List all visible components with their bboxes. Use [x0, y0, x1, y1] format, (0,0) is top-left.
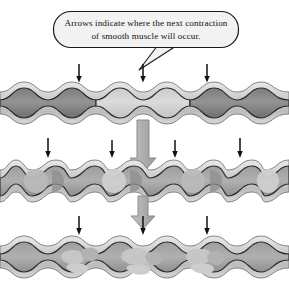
stage-1-tube	[0, 82, 289, 124]
thin-down-arrow	[45, 138, 50, 158]
thin-down-arrow	[109, 140, 114, 158]
thin-down-arrow	[237, 138, 242, 158]
callout-bubble: Arrows indicate where the next contracti…	[54, 12, 239, 71]
thin-down-arrow	[204, 64, 209, 83]
thin-down-arrow	[204, 216, 209, 235]
callout-line-1: Arrows indicate where the next contracti…	[64, 18, 227, 28]
thin-down-arrow	[172, 140, 177, 158]
callout-line-2: of smooth muscle will occur.	[91, 31, 200, 41]
stage-3-tube	[0, 236, 289, 278]
content-blob	[181, 169, 205, 193]
thin-down-arrow	[76, 216, 81, 235]
content-blob	[102, 169, 126, 193]
callout-box	[54, 12, 239, 48]
thin-down-arrow	[76, 64, 81, 83]
stage-3-arrows	[76, 216, 209, 235]
content-blob	[24, 169, 48, 193]
content-fragment	[190, 263, 214, 273]
peristalsis-diagram: Arrows indicate where the next contracti…	[0, 0, 289, 291]
content-blob	[257, 169, 279, 193]
callout-tail	[139, 45, 173, 70]
figure-canvas: Arrows indicate where the next contracti…	[0, 0, 289, 291]
stage-1-arrows	[76, 64, 209, 83]
